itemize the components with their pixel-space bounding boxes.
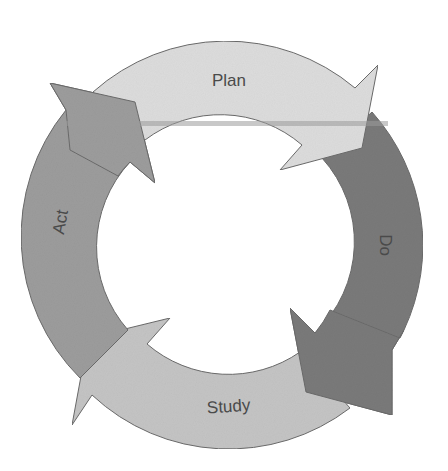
study-label: Study	[206, 395, 251, 417]
plan-label: Plan	[212, 71, 246, 90]
pdsa-cycle-diagram: Plan Do Study Act	[0, 0, 448, 471]
do-label: Do	[376, 234, 395, 256]
scan-artifact	[58, 121, 388, 126]
